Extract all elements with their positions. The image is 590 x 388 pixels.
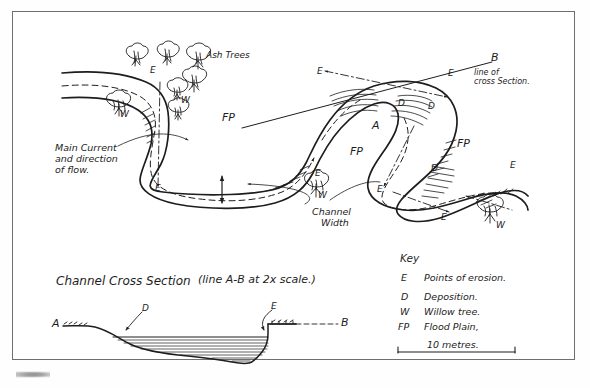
scan-smudge [16,371,50,378]
field-sketch-sheet: Ash Trees Main Current and direction of … [0,0,590,388]
scale-bar [0,0,590,388]
